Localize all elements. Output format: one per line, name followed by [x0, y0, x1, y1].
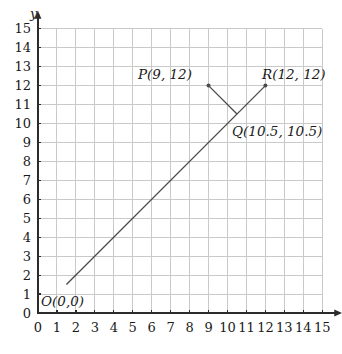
point-label-o: O(0,0)	[41, 293, 84, 309]
y-tick-label: 13	[14, 59, 31, 74]
y-tick-label: 15	[14, 21, 31, 36]
y-tick-label: 8	[23, 154, 31, 169]
coordinate-grid-figure: 0123456789101112131415 01234567891011121…	[0, 0, 342, 354]
x-tick-label: 3	[91, 320, 99, 335]
y-tick-label: 0	[23, 306, 31, 321]
x-tick-label: 5	[129, 320, 137, 335]
point-marker-p	[207, 84, 211, 88]
y-tick-label: 4	[23, 230, 31, 245]
x-tick-label: 8	[185, 320, 193, 335]
x-tick-label: 7	[167, 320, 175, 335]
point-label-r: R(12, 12)	[261, 66, 326, 82]
y-tick-label: 12	[14, 78, 31, 93]
y-tick-label: 1	[23, 287, 31, 302]
y-tick-label: 5	[23, 211, 31, 226]
x-tick-label: 14	[295, 320, 312, 335]
y-tick-label: 11	[14, 97, 31, 112]
x-tick-label: 11	[238, 320, 255, 335]
y-tick-label: 7	[23, 173, 31, 188]
x-tick-label: 6	[148, 320, 156, 335]
x-tick-label: 2	[72, 320, 80, 335]
x-tick-label: 0	[34, 320, 42, 335]
x-tick-label: 13	[276, 320, 293, 335]
x-tick-label: 4	[110, 320, 118, 335]
x-tick-label: 1	[53, 320, 61, 335]
point-label-q: Q(10.5, 10.5)	[232, 123, 322, 139]
point-label-p: P(9, 12)	[137, 66, 192, 82]
y-tick-label: 3	[23, 249, 31, 264]
x-tick-label: 12	[257, 320, 274, 335]
x-tick-label: 9	[204, 320, 212, 335]
point-marker-r	[263, 84, 267, 88]
y-tick-label: 6	[23, 192, 31, 207]
y-tick-label: 10	[14, 116, 31, 131]
y-axis-label: y	[29, 6, 38, 21]
y-tick-label: 2	[23, 268, 31, 283]
plot-svg: 0123456789101112131415 01234567891011121…	[0, 0, 342, 354]
y-tick-label: 9	[23, 135, 31, 150]
x-tick-label: 10	[219, 320, 236, 335]
y-tick-label: 14	[14, 40, 31, 55]
x-tick-label: 15	[314, 320, 331, 335]
